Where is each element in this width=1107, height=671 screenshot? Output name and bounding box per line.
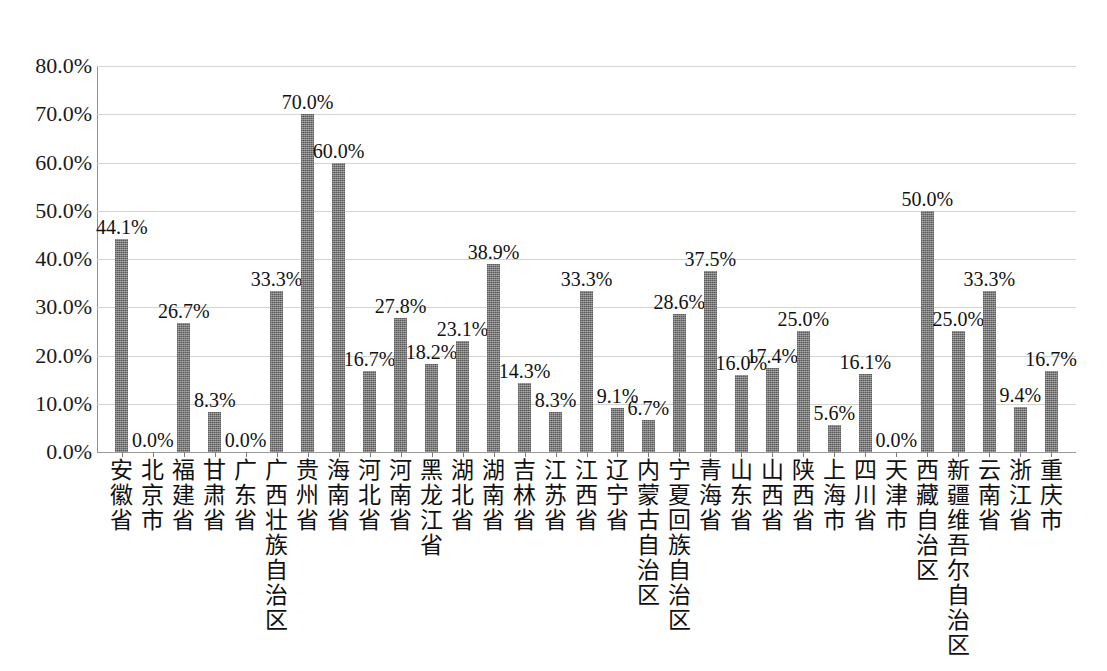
bar-slot: 17.4% xyxy=(757,66,788,452)
x-axis-category-label: 湖南省 xyxy=(477,458,510,533)
category-label-text: 宁夏回族自治区 xyxy=(667,458,691,633)
bar-slot: 6.7% xyxy=(633,66,664,452)
x-axis-category-label: 宁夏回族自治区 xyxy=(663,458,696,633)
x-axis-category-label: 江西省 xyxy=(570,458,603,533)
x-axis-category-label: 山东省 xyxy=(725,458,758,533)
bar-slot: 27.8% xyxy=(385,66,416,452)
bar[interactable] xyxy=(921,211,934,452)
category-label-text: 湖北省 xyxy=(451,458,475,533)
bar[interactable] xyxy=(1014,407,1027,452)
x-axis-category-label: 河南省 xyxy=(384,458,417,533)
y-axis-tick-label: 10.0% xyxy=(0,393,92,415)
x-axis-category-label: 浙江省 xyxy=(1004,458,1037,533)
category-label-text: 内蒙古自治区 xyxy=(636,458,660,608)
category-label-text: 青海省 xyxy=(698,458,722,533)
bar[interactable] xyxy=(766,368,779,452)
x-axis-category-label: 天津市 xyxy=(880,458,913,533)
bar-value-label: 16.7% xyxy=(1025,349,1077,369)
bar-slot: 18.2% xyxy=(416,66,447,452)
bar[interactable] xyxy=(549,412,562,452)
y-axis-tick-label: 70.0% xyxy=(0,103,92,125)
category-label-text: 重庆市 xyxy=(1039,458,1063,533)
category-label-text: 广东省 xyxy=(234,458,258,533)
bar[interactable] xyxy=(177,323,190,452)
x-axis-category-label: 云南省 xyxy=(973,458,1006,533)
bar[interactable] xyxy=(952,331,965,452)
bar[interactable] xyxy=(983,291,996,452)
category-label-text: 海南省 xyxy=(327,458,351,533)
x-axis-category-label: 山西省 xyxy=(756,458,789,533)
x-axis-category-label: 贵州省 xyxy=(291,458,324,533)
bar-slot: 8.3% xyxy=(199,66,230,452)
bar-slot: 44.1% xyxy=(106,66,137,452)
bar[interactable] xyxy=(518,383,531,452)
bar[interactable] xyxy=(797,331,810,452)
plot-area: 44.1%0.0%26.7%8.3%0.0%33.3%70.0%60.0%16.… xyxy=(97,66,1076,452)
category-label-text: 浙江省 xyxy=(1008,458,1032,533)
x-axis-category-label: 西藏自治区 xyxy=(911,458,944,583)
category-label-text: 贵州省 xyxy=(296,458,320,533)
bar[interactable] xyxy=(1045,371,1058,452)
bar-slot: 16.7% xyxy=(1036,66,1067,452)
x-axis-category-label: 青海省 xyxy=(694,458,727,533)
bar[interactable] xyxy=(456,341,469,452)
bar-slot: 0.0% xyxy=(137,66,168,452)
y-axis-tick-label: 60.0% xyxy=(0,152,92,174)
bar-slot: 33.3% xyxy=(261,66,292,452)
bar-slot: 60.0% xyxy=(323,66,354,452)
bar-slot: 37.5% xyxy=(695,66,726,452)
x-axis-category-label: 上海市 xyxy=(818,458,851,533)
category-label-text: 吉林省 xyxy=(513,458,537,533)
bar[interactable] xyxy=(487,264,500,452)
category-label-text: 江苏省 xyxy=(544,458,568,533)
bar-slot: 70.0% xyxy=(292,66,323,452)
x-axis-category-label: 北京市 xyxy=(136,458,169,533)
bar-slot: 0.0% xyxy=(230,66,261,452)
y-axis-tick-label: 20.0% xyxy=(0,345,92,367)
category-label-text: 上海市 xyxy=(822,458,846,533)
category-label-text: 山西省 xyxy=(760,458,784,533)
bar[interactable] xyxy=(735,375,748,452)
bar[interactable] xyxy=(332,163,345,453)
x-axis-category-label: 湖北省 xyxy=(446,458,479,533)
x-axis-category-label: 甘肃省 xyxy=(198,458,231,533)
bar[interactable] xyxy=(859,374,872,452)
bar[interactable] xyxy=(394,318,407,452)
bar-slot: 16.7% xyxy=(354,66,385,452)
bar[interactable] xyxy=(642,420,655,452)
bar[interactable] xyxy=(611,408,624,452)
x-axis-category-label: 陕西省 xyxy=(787,458,820,533)
bar-slot: 16.0% xyxy=(726,66,757,452)
bar[interactable] xyxy=(115,239,128,452)
bar-slot: 9.4% xyxy=(1005,66,1036,452)
x-axis-category-label: 黑龙江省 xyxy=(415,458,448,558)
bar-slot: 38.9% xyxy=(478,66,509,452)
category-label-text: 黑龙江省 xyxy=(420,458,444,558)
bar[interactable] xyxy=(363,371,376,452)
category-label-text: 新疆维吾尔自治区 xyxy=(946,458,970,658)
x-axis-category-label: 广西壮族自治区 xyxy=(260,458,293,633)
bar-slot: 50.0% xyxy=(912,66,943,452)
bar-slot: 25.0% xyxy=(788,66,819,452)
bar[interactable] xyxy=(208,412,221,452)
x-axis-category-label: 内蒙古自治区 xyxy=(632,458,665,608)
bar[interactable] xyxy=(425,364,438,452)
x-axis-category-label: 河北省 xyxy=(353,458,386,533)
x-axis-category-label: 广东省 xyxy=(229,458,262,533)
x-axis-category-label: 吉林省 xyxy=(508,458,541,533)
x-axis-category-label: 新疆维吾尔自治区 xyxy=(942,458,975,658)
x-axis-category-label: 海南省 xyxy=(322,458,355,533)
x-axis-category-label: 江苏省 xyxy=(539,458,572,533)
category-label-text: 福建省 xyxy=(172,458,196,533)
bar[interactable] xyxy=(580,291,593,452)
bar-slot: 5.6% xyxy=(819,66,850,452)
bar[interactable] xyxy=(270,291,283,452)
bar[interactable] xyxy=(301,114,314,452)
x-axis-category-label: 福建省 xyxy=(167,458,200,533)
figure-container: 80.0%70.0%60.0%50.0%40.0%30.0%20.0%10.0%… xyxy=(0,0,1107,671)
bar[interactable] xyxy=(673,314,686,452)
x-axis-category-label: 辽宁省 xyxy=(601,458,634,533)
bar-slot: 16.1% xyxy=(850,66,881,452)
y-axis-tick-label: 30.0% xyxy=(0,296,92,318)
bar[interactable] xyxy=(828,425,841,452)
